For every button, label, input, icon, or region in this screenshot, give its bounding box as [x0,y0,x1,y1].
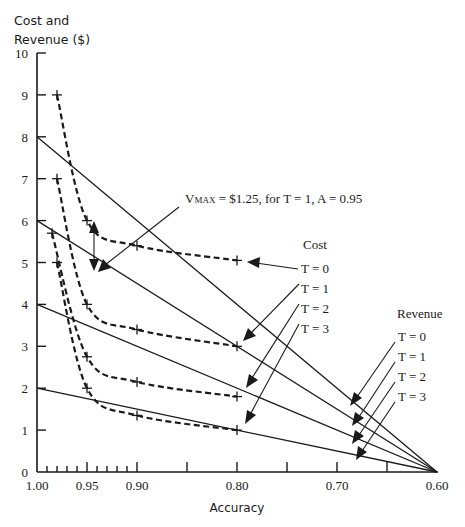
vmax-arrow-down-head [89,259,99,271]
revenue-t3-pointer [362,402,395,451]
cost-revenue-chart: Cost and Revenue ($) 012345678910 1.000.… [0,0,465,527]
y-tick-label: 3 [22,339,29,354]
cost-label-t2: T = 2 [301,301,329,316]
cost-t0-arrowhead [247,257,260,268]
y-tick-label: 6 [22,214,29,229]
y-tick-label: 4 [22,297,29,312]
revenue-line [37,137,437,472]
x-axis-label: Accuracy [210,501,265,515]
cost-t3-arrowhead [245,410,256,424]
revenue-legend: Revenue T = 0 T = 1 T = 2 T = 3 [350,306,443,460]
x-tick-label: 0.80 [226,478,249,493]
y-tick-label: 8 [22,130,29,145]
y-axis-ticks: 012345678910 [15,46,46,480]
vmax-label: VMAX = $1.25, for T = 1, A = 0.95 [185,191,362,206]
revenue-label-t1: T = 1 [398,349,426,364]
cost-curve [57,263,237,431]
x-axis-ticks: 1.000.950.900.800.700.60 [26,462,449,493]
y-tick-label: 10 [15,46,28,61]
x-tick-label: 0.95 [76,478,99,493]
cost-legend-title: Cost [303,237,327,252]
cost-label-t1: T = 1 [301,281,329,296]
y-axis-label-line2: Revenue ($) [14,32,90,47]
cost-t2-arrowhead [246,374,258,388]
revenue-label-t0: T = 0 [398,329,426,344]
cost-t1-pointer [250,284,299,334]
y-axis-label-line1: Cost and [14,13,69,28]
x-tick-label: 0.70 [326,478,349,493]
revenue-label-t3: T = 3 [398,389,426,404]
revenue-legend-title: Revenue [397,306,443,321]
revenue-lines [37,137,437,472]
cost-curve [57,95,237,261]
revenue-t1-arrowhead [352,412,364,426]
cost-t0-pointer [256,263,298,269]
y-tick-label: 1 [22,423,29,438]
revenue-label-t2: T = 2 [398,369,426,384]
x-tick-label: 0.90 [126,478,149,493]
cost-curves [47,90,242,435]
y-tick-label: 7 [22,172,29,187]
x-tick-label: 0.60 [426,478,449,493]
y-tick-label: 2 [22,381,29,396]
cost-label-t3: T = 3 [301,321,329,336]
revenue-t0-pointer [357,342,395,397]
cost-label-t0: T = 0 [301,261,329,276]
revenue-line [37,304,437,472]
y-tick-label: 9 [22,88,29,103]
y-tick-label: 5 [22,256,29,271]
revenue-t2-arrowhead [352,430,364,444]
x-tick-label: 1.00 [26,478,49,493]
vmax-pointer-line [105,207,179,265]
revenue-t3-arrowhead [356,446,367,460]
